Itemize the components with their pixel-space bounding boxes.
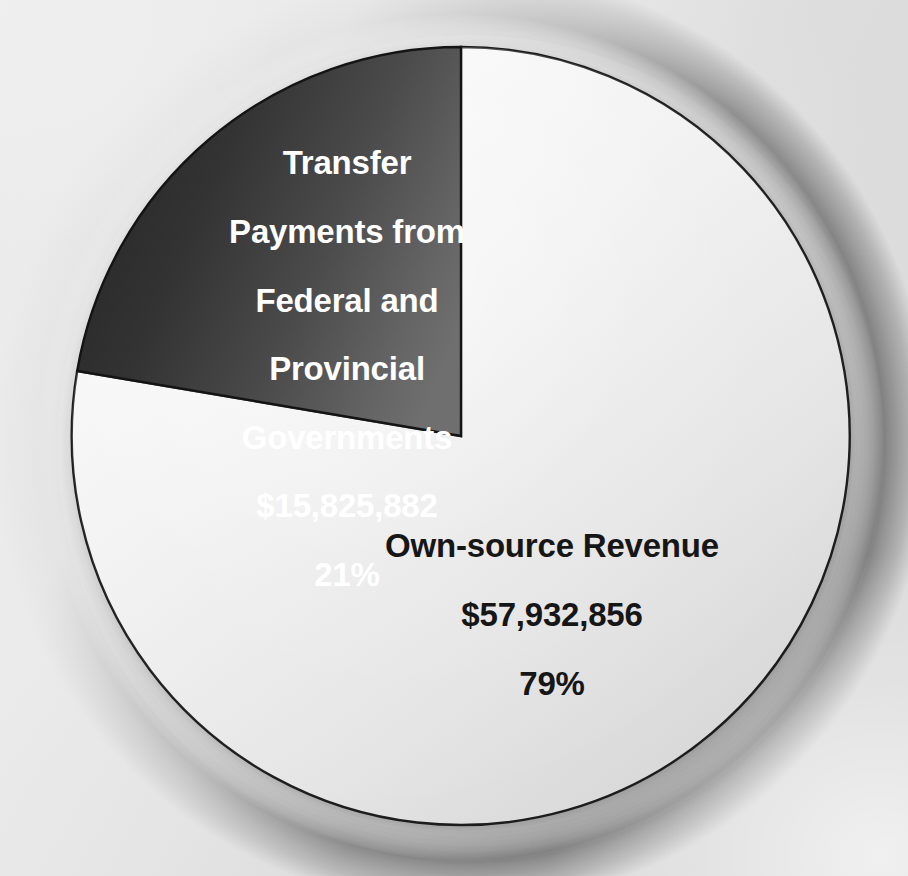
pie-chart-canvas <box>0 0 908 876</box>
pie-chart-figure: Transfer Payments from Federal and Provi… <box>0 0 908 876</box>
pie-slice-transfer-payments[interactable] <box>77 47 461 436</box>
